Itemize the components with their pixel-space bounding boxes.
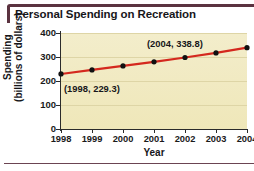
series-markers <box>58 45 249 76</box>
data-point <box>213 50 218 55</box>
y-tick-label: 300 <box>40 52 56 62</box>
x-tick-label: 2000 <box>113 135 134 144</box>
x-tick-mark <box>92 129 93 133</box>
data-point <box>58 71 63 76</box>
y-tick-label: 100 <box>40 100 56 110</box>
x-tick-mark <box>61 129 62 133</box>
y-axis-title-line2: (billions of dollars) <box>13 0 24 117</box>
annotation-2004: (2004, 338.8) <box>147 38 203 49</box>
y-tick-mark <box>56 129 60 130</box>
annotation-1998: (1998, 229.3) <box>64 83 120 94</box>
data-point <box>182 55 187 60</box>
y-tick-mark <box>56 33 60 34</box>
x-tick-label: 2002 <box>175 135 196 144</box>
recreation-spending-figure: Personal Spending on Recreation 01002003… <box>0 0 254 171</box>
y-tick-label: 400 <box>40 28 56 38</box>
x-tick-label: 2003 <box>206 135 227 144</box>
y-tick-mark <box>56 57 60 58</box>
y-tick-label: 200 <box>40 76 56 86</box>
data-point <box>120 63 125 68</box>
x-tick-label: 1999 <box>82 135 103 144</box>
x-tick-mark <box>216 129 217 133</box>
data-point <box>151 59 156 64</box>
data-point <box>89 67 94 72</box>
y-tick-mark <box>56 105 60 106</box>
x-tick-label: 2004 <box>237 135 254 144</box>
x-axis-title: Year <box>61 147 247 158</box>
x-tick-mark <box>247 129 248 133</box>
x-tick-label: 1998 <box>51 135 72 144</box>
x-tick-mark <box>154 129 155 133</box>
x-tick-mark <box>123 129 124 133</box>
x-tick-mark <box>185 129 186 133</box>
y-axis-title-line1: Spending <box>2 0 13 117</box>
y-axis-title: Spending (billions of dollars) <box>2 0 24 117</box>
y-tick-mark <box>56 81 60 82</box>
y-axis-tick-labels: 0100200300400 <box>20 0 56 171</box>
x-tick-label: 2001 <box>144 135 165 144</box>
data-point <box>244 45 249 50</box>
bottom-rule <box>4 163 254 164</box>
